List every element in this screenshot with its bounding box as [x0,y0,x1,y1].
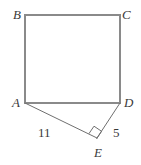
vertex-label-d: D [124,96,133,109]
side-length-ed: 5 [113,126,120,139]
geometry-canvas [0,0,141,165]
edge-AE [25,103,97,138]
side-length-ae: 11 [38,126,51,139]
vertex-label-a: A [12,96,20,109]
geometry-figure: B C A D E 11 5 [0,0,141,165]
vertex-label-e: E [94,146,102,159]
vertex-label-b: B [13,8,21,21]
vertex-label-c: C [122,8,131,21]
